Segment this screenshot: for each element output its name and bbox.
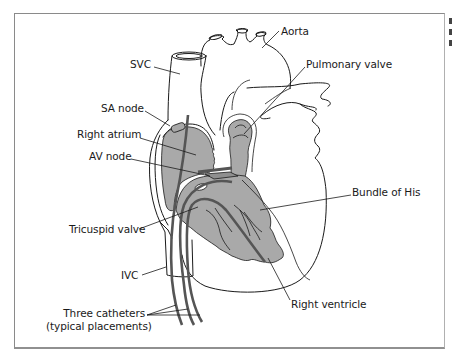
- label-bundle-of-his: Bundle of His: [352, 186, 420, 198]
- label-sa-node: SA node: [101, 102, 144, 114]
- svc-shape: [168, 52, 215, 135]
- label-aorta: Aorta: [281, 25, 309, 37]
- heart-diagram: [0, 0, 456, 355]
- label-three-catheters: Three catheters: [48, 307, 145, 319]
- leader-catheters-a: [147, 305, 176, 315]
- leader-right-ventricle: [268, 258, 290, 300]
- leader-pulmonary-valve: [244, 67, 305, 134]
- leader-catheters-b: [147, 309, 188, 315]
- aorta-shape: [201, 29, 291, 89]
- label-right-atrium: Right atrium: [77, 128, 141, 140]
- label-right-ventricle: Right ventricle: [291, 298, 366, 310]
- leader-aorta: [262, 31, 279, 48]
- label-ivc: IVC: [121, 269, 138, 281]
- leader-sa-node: [145, 111, 170, 126]
- label-pulmonary-valve: Pulmonary valve: [306, 58, 392, 70]
- leader-svc: [154, 67, 180, 74]
- label-typical-placements: (typical placements): [46, 320, 145, 332]
- label-svc: SVC: [130, 58, 151, 70]
- label-tricuspid-valve: Tricuspid valve: [69, 223, 145, 235]
- leader-ivc: [142, 267, 166, 275]
- label-av-node: AV node: [89, 150, 132, 162]
- leader-bundle-of-his: [260, 195, 351, 210]
